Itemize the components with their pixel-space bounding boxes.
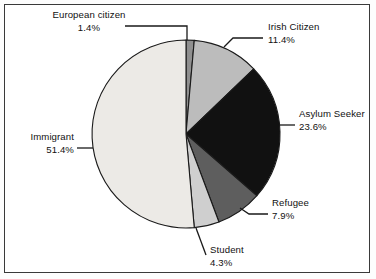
- pie-label-student-name: Student: [210, 243, 244, 256]
- pie-label-irish-citizen-name: Irish Citizen: [268, 20, 319, 33]
- pie-slice-immigrant[interactable]: [92, 40, 194, 228]
- pie-label-refugee-value: 7.9%: [272, 209, 309, 222]
- pie-label-asylum-seeker-name: Asylum Seeker: [299, 107, 365, 120]
- pie-label-immigrant-value: 51.4%: [8, 143, 74, 156]
- pie-label-student: Student 4.3%: [210, 243, 244, 269]
- leader-line-student: [196, 228, 206, 255]
- leader-line-refugee: [240, 208, 268, 214]
- pie-label-european-citizen-value: 1.4%: [40, 21, 138, 34]
- pie-label-student-value: 4.3%: [210, 256, 244, 269]
- pie-slices: [92, 40, 280, 228]
- pie-label-asylum-seeker-value: 23.6%: [299, 120, 365, 133]
- pie-label-immigrant-name: Immigrant: [8, 130, 74, 143]
- pie-chart-figure: European citizen 1.4% Irish Citizen 11.4…: [0, 0, 376, 279]
- pie-label-european-citizen-name: European citizen: [40, 8, 138, 21]
- pie-label-refugee: Refugee 7.9%: [272, 196, 309, 222]
- leader-line-irish-citizen: [224, 38, 263, 47]
- pie-label-asylum-seeker: Asylum Seeker 23.6%: [299, 107, 365, 133]
- pie-label-irish-citizen: Irish Citizen 11.4%: [268, 20, 319, 46]
- pie-label-refugee-name: Refugee: [272, 196, 309, 209]
- pie-label-irish-citizen-value: 11.4%: [268, 33, 319, 46]
- pie-label-european-citizen: European citizen 1.4%: [40, 8, 138, 34]
- pie-label-immigrant: Immigrant 51.4%: [8, 130, 74, 156]
